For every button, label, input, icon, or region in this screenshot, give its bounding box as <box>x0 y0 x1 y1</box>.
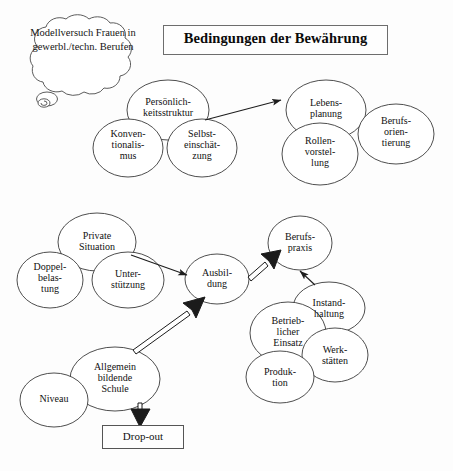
diagram-graphics <box>0 0 453 471</box>
edge-persoenlichkeit-to-lebensplanung <box>205 100 281 120</box>
ellipse-doppelbelastung <box>17 252 83 308</box>
dropout-label: Drop-out <box>102 430 184 442</box>
ellipse-rollenvorstellung <box>282 123 358 185</box>
thought-bubble-text: Modellversuch Frauen in gewerbl./techn. … <box>30 26 136 54</box>
cluster-lebensplanung <box>282 80 434 185</box>
diagram-canvas: Bedingungen der Bewährung Modellversuch … <box>0 0 453 471</box>
edge-ausbildung-to-berufspraxis <box>248 250 281 281</box>
cluster-private-situation <box>17 213 164 308</box>
ellipse-konventionalismus <box>93 119 163 177</box>
ellipse-niveau <box>20 373 88 427</box>
ellipse-ausbildung <box>185 254 249 304</box>
page-title: Bedingungen der Bewährung <box>163 30 388 47</box>
cluster-persoenlichkeit <box>93 80 237 177</box>
edge-instandhaltung-to-berufspraxis <box>300 271 315 285</box>
ellipse-unterstuetzung <box>92 252 164 308</box>
ellipse-selbsteinschaetzung <box>167 119 237 177</box>
ellipse-produktion <box>246 351 314 403</box>
ellipse-berufspraxis <box>268 216 332 270</box>
cluster-betrieb <box>246 282 368 403</box>
ellipse-berufsorientierung <box>358 104 434 164</box>
